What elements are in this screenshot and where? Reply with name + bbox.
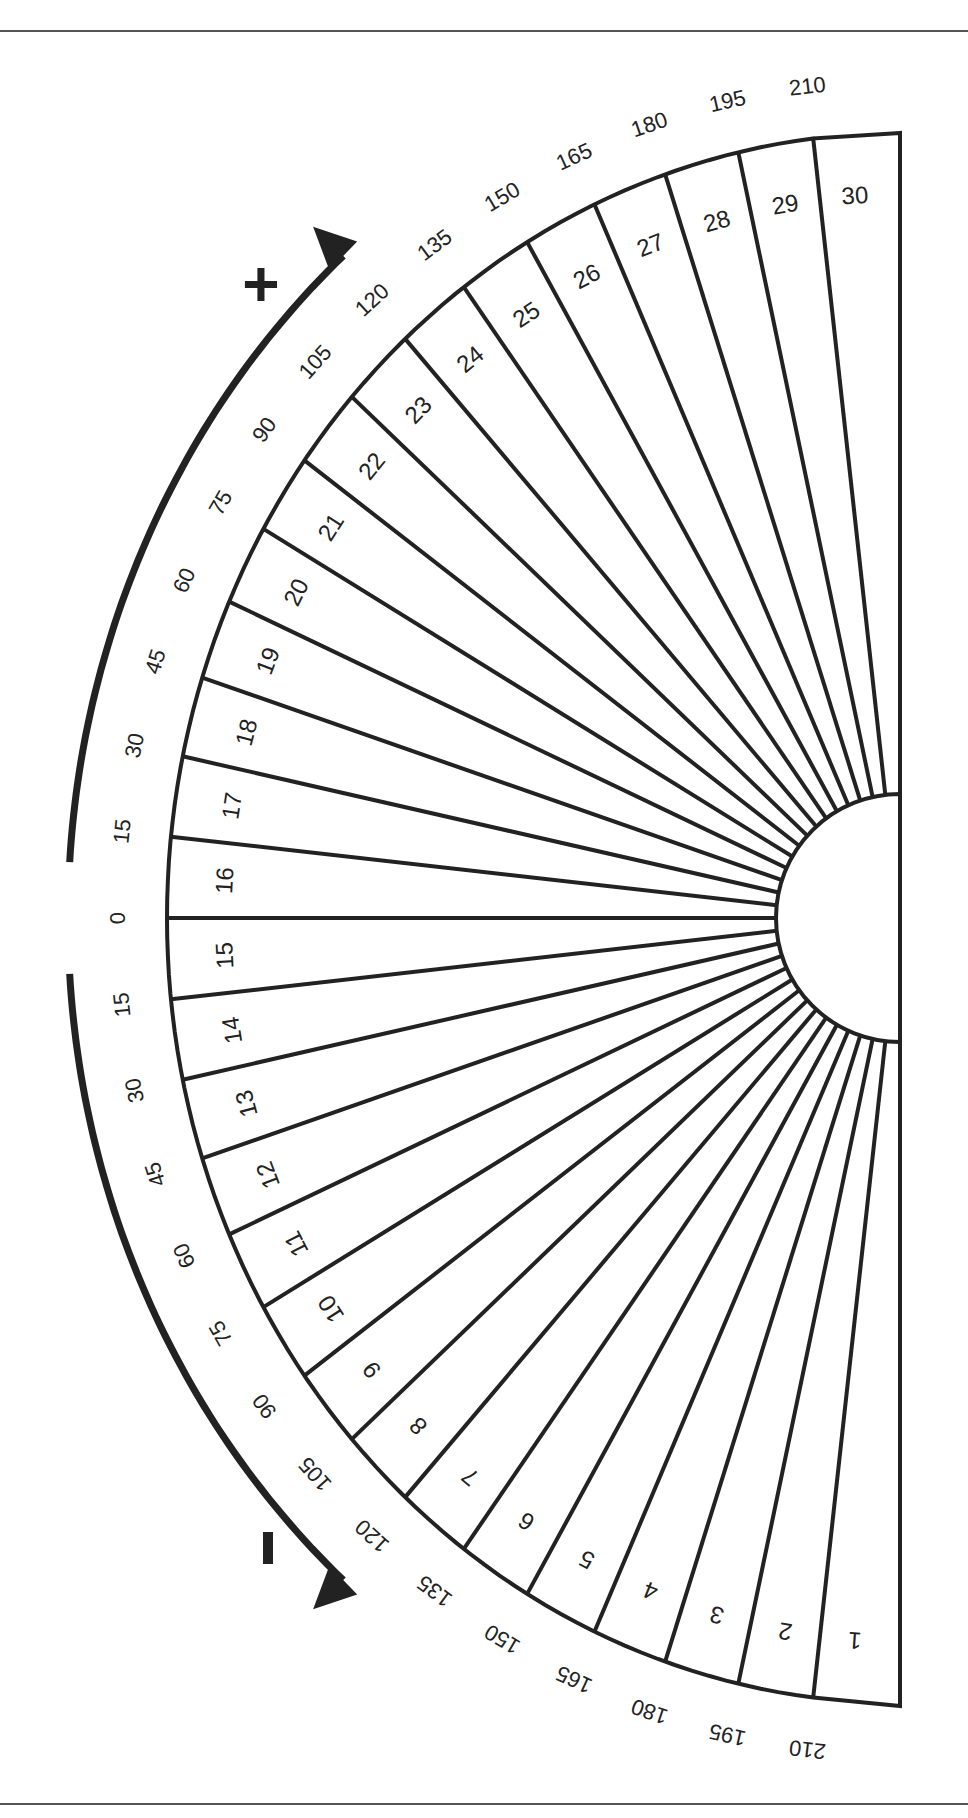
sector-divider (813, 139, 885, 795)
scale-label: 150 (480, 177, 524, 217)
sector-label: 21 (312, 508, 349, 545)
scale-label: 105 (293, 340, 336, 384)
scale-label: 165 (552, 1661, 596, 1699)
sector-label: 22 (353, 447, 391, 485)
scale-label: 60 (168, 1239, 201, 1271)
scale-label: 135 (412, 1570, 456, 1612)
sector-label: 19 (250, 643, 285, 678)
scale-label: 180 (628, 107, 671, 142)
scale-label: 75 (204, 486, 238, 520)
sector-label: 3 (707, 1600, 727, 1630)
scale-label: 165 (552, 137, 596, 175)
scale-label: 120 (350, 278, 394, 321)
sector-label: 10 (312, 1291, 349, 1328)
sector-divider (527, 242, 837, 811)
sector-label: 15 (210, 941, 238, 969)
plus-sign-label: + (242, 248, 279, 320)
minus-direction-arrow (70, 974, 344, 1580)
sector-label: 24 (451, 340, 489, 378)
sector-divider (263, 979, 792, 1307)
arrowhead-down-icon (313, 1566, 357, 1610)
scale-label: 150 (480, 1619, 524, 1659)
sector-label: 28 (700, 204, 733, 237)
arrowhead-up-icon (313, 227, 357, 271)
scale-label: 45 (140, 646, 171, 677)
scale-label: 210 (788, 72, 827, 101)
scale-label: 15 (108, 818, 135, 845)
scale-label: 75 (204, 1316, 238, 1350)
sector-label: 12 (250, 1158, 285, 1193)
sector-label: 11 (278, 1227, 313, 1261)
sector-label: 2 (776, 1617, 794, 1646)
sector-label: 27 (633, 227, 668, 262)
scale-label: 195 (707, 1719, 748, 1751)
sector-label: 16 (210, 866, 238, 894)
scale-label: 210 (788, 1735, 827, 1764)
sector-label: 26 (568, 258, 604, 294)
sector-divider (813, 1041, 885, 1697)
scale-label: 135 (412, 224, 456, 266)
sector-label: 20 (278, 574, 314, 610)
sector-label: 4 (639, 1576, 661, 1606)
sector-label: 18 (230, 716, 263, 749)
sector-label: 5 (574, 1545, 598, 1575)
radial-scale-chart: 1234567891011121314151617181920212223242… (0, 0, 968, 1818)
scale-label: 60 (168, 564, 201, 596)
sector-divider (527, 1025, 837, 1594)
scale-label: 0 (105, 912, 130, 924)
scale-label: 30 (120, 1076, 150, 1105)
sector-label: 1 (847, 1627, 862, 1655)
sector-divider (263, 529, 792, 857)
scale-label: 120 (350, 1514, 394, 1557)
sector-label: 13 (230, 1087, 263, 1120)
inner-semicircle (776, 794, 900, 1042)
sector-label: 14 (216, 1015, 247, 1046)
plus-direction-arrow (70, 256, 344, 862)
sector-label: 8 (404, 1412, 433, 1440)
sector-label: 9 (357, 1356, 386, 1383)
minus-sign-icon (263, 1532, 273, 1564)
scale-label: 90 (247, 412, 282, 446)
scale-label: 90 (247, 1389, 282, 1423)
scale-label: 105 (293, 1452, 336, 1496)
sector-label: 17 (216, 790, 247, 821)
scale-label: 180 (628, 1694, 671, 1729)
scale-label: 45 (140, 1159, 171, 1190)
sector-label: 29 (770, 189, 801, 220)
sector-label: 6 (513, 1507, 539, 1537)
sector-label: 23 (399, 391, 437, 429)
sector-label: 25 (508, 296, 545, 333)
sector-label: 7 (456, 1462, 483, 1491)
scale-label: 15 (108, 991, 135, 1018)
scale-label: 30 (120, 731, 150, 760)
sector-label: 30 (841, 181, 869, 210)
scale-label: 195 (707, 85, 748, 117)
